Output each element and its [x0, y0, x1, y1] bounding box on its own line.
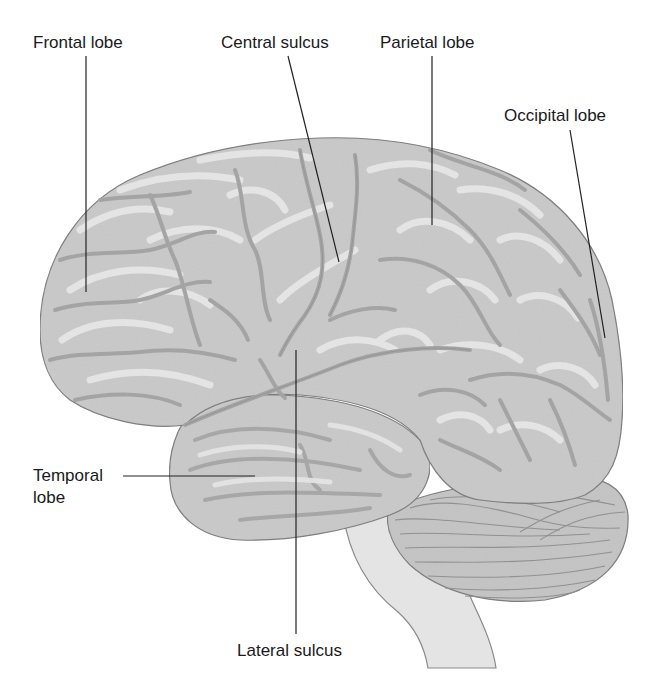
label-lateral-sulcus: Lateral sulcus — [237, 641, 342, 661]
brain-diagram: Frontal lobe Central sulcus Parietal lob… — [0, 0, 655, 687]
brain-illustration — [0, 0, 655, 687]
label-frontal-lobe: Frontal lobe — [33, 33, 123, 53]
label-temporal-lobe-line1: Temporal — [33, 466, 103, 486]
label-temporal-lobe-line2: lobe — [33, 488, 65, 508]
label-occipital-lobe: Occipital lobe — [504, 106, 606, 126]
label-parietal-lobe: Parietal lobe — [380, 33, 475, 53]
label-central-sulcus: Central sulcus — [221, 33, 329, 53]
